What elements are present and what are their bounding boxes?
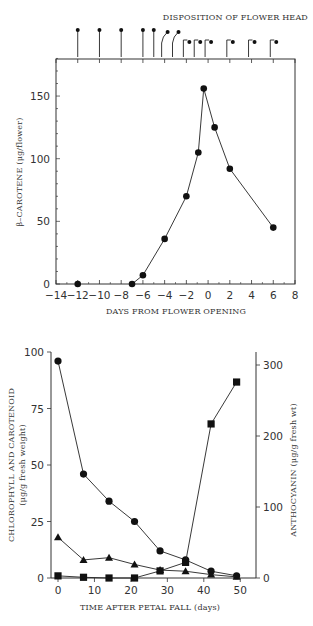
beta-carotene-series (74, 85, 276, 287)
flower-head-upright-icon (141, 28, 145, 57)
beta-carotene-chart: DISPOSITION OF FLOWER HEAD −14−12−10−8−6… (15, 13, 308, 316)
flower-head-hooked-icon (183, 40, 191, 57)
top-x-tick-label: 0 (205, 289, 212, 301)
flower-head-tilted-icon (162, 30, 170, 57)
flower-head-hooked-icon (227, 40, 235, 57)
bottom-left-y-axis-subtitle: (μg/g fresh weight) (18, 424, 27, 506)
bottom-x-tick-label: 30 (161, 584, 174, 596)
flower-head-upright-icon (97, 28, 101, 57)
top-y-tick-label: 0 (43, 278, 50, 290)
series-chlorophyll (54, 357, 240, 579)
pigment-chart: 01020304050 0255075100 0100200300 TIME A… (7, 346, 298, 612)
pigment-series (54, 357, 241, 581)
bottom-x-tick-label: 20 (124, 584, 137, 596)
data-point-square (54, 572, 61, 579)
data-point-square (156, 567, 163, 574)
flower-head-hooked-icon (205, 40, 213, 57)
top-plot-frame (56, 59, 295, 284)
top-x-tick-label: −12 (67, 289, 89, 301)
bottom-x-axis-title: TIME AFTER PETAL FALL (days) (80, 603, 220, 612)
top-x-tick-label: −4 (157, 289, 173, 301)
data-point-circle (270, 224, 277, 231)
bottom-right-y-tick-label: 200 (263, 430, 283, 442)
bottom-left-y-tick-label: 25 (31, 516, 44, 528)
bottom-x-tick-label: 40 (197, 584, 210, 596)
figure: DISPOSITION OF FLOWER HEAD −14−12−10−8−6… (0, 0, 313, 626)
top-x-tick-label: −8 (113, 289, 128, 301)
bottom-x-tick-label: 10 (88, 584, 101, 596)
bottom-left-y-axis: 0255075100 (24, 346, 51, 584)
data-point-circle (74, 281, 81, 288)
flower-head-hooked-icon (249, 40, 257, 57)
top-x-tick-label: 4 (248, 289, 255, 301)
data-point-triangle (105, 554, 113, 561)
top-y-tick-label: 50 (37, 215, 50, 227)
data-point-square (182, 559, 189, 566)
data-point-circle (54, 357, 61, 364)
data-point-circle (129, 281, 136, 288)
flower-head-hooked-icon (270, 40, 278, 57)
data-point-square (207, 420, 214, 427)
bottom-left-y-tick-label: 100 (24, 346, 44, 358)
top-x-tick-label: 2 (226, 289, 233, 301)
flower-head-upright-icon (152, 28, 156, 57)
data-point-circle (227, 165, 234, 172)
data-point-circle (211, 124, 218, 131)
data-point-circle (183, 193, 190, 200)
data-point-square (131, 574, 138, 581)
data-point-circle (105, 498, 112, 505)
top-x-axis: −14−12−10−8−6−4−202468 (45, 59, 298, 301)
bottom-right-y-axis-title: ANTHOCYANIN (μg/g fresh wt) (289, 403, 298, 538)
top-x-tick-label: −6 (135, 289, 151, 301)
flower-head-tilted-icon (173, 30, 181, 57)
data-point-circle (80, 470, 87, 477)
flower-head-glyphs (76, 28, 279, 57)
data-point-circle (161, 236, 168, 243)
flower-head-upright-icon (76, 28, 80, 57)
top-y-axis: 050100150 (30, 58, 60, 290)
bottom-right-y-tick-label: 300 (263, 359, 283, 371)
bottom-right-y-tick-label: 100 (263, 501, 283, 513)
top-x-tick-label: −14 (45, 289, 67, 301)
top-x-tick-label: 8 (292, 289, 299, 301)
bottom-right-y-tick-label: 0 (263, 572, 270, 584)
data-point-square (80, 574, 87, 581)
series-anthocyanin (54, 378, 240, 581)
data-point-square (105, 574, 112, 581)
bottom-x-tick-label: 50 (234, 584, 247, 596)
data-point-circle (195, 149, 202, 156)
data-point-square (233, 378, 240, 385)
bottom-left-y-axis-title: CHLOROPHYLL AND CAROTENOID (7, 388, 16, 542)
top-y-tick-label: 100 (30, 153, 50, 165)
flower-head-hooked-icon (194, 40, 202, 57)
bottom-left-y-tick-label: 50 (31, 459, 44, 471)
bottom-left-y-tick-label: 0 (37, 572, 44, 584)
top-x-axis-title: DAYS FROM FLOWER OPENING (106, 307, 246, 316)
data-point-circle (156, 547, 163, 554)
top-y-tick-label: 150 (30, 90, 50, 102)
top-x-tick-label: −2 (179, 289, 194, 301)
flower-head-upright-icon (119, 28, 123, 57)
top-x-tick-label: 6 (270, 289, 277, 301)
data-point-circle (131, 518, 138, 525)
data-point-circle (200, 85, 207, 92)
data-point-circle (140, 272, 147, 279)
top-y-axis-title: β–CAROTENE (μg/flower) (15, 117, 24, 226)
bottom-right-y-axis: 0100200300 (256, 359, 283, 584)
bottom-left-y-tick-label: 75 (31, 403, 44, 415)
data-point-triangle (54, 533, 62, 540)
bottom-x-tick-label: 0 (55, 584, 62, 596)
top-x-tick-label: −10 (88, 289, 110, 301)
disposition-annotation: DISPOSITION OF FLOWER HEAD (163, 13, 308, 22)
